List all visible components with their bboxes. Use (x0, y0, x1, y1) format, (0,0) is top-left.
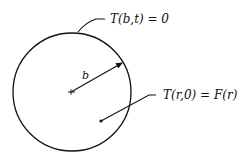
radius-label: b (82, 69, 89, 82)
diagram-canvas: b T(b,t) = 0 T(r,0) = F(r) (0, 0, 249, 161)
radius-arrow (71, 63, 122, 92)
boundary-condition-label: T(b,t) = 0 (110, 12, 169, 26)
boundary-leader-line (78, 19, 105, 32)
initial-condition-label: T(r,0) = F(r) (163, 88, 238, 102)
diagram-svg: b T(b,t) = 0 T(r,0) = F(r) (0, 0, 249, 161)
